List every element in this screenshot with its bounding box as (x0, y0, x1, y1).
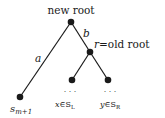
node-x (69, 77, 76, 84)
node-new-root (68, 19, 75, 26)
label-s-m1: sm+1 (10, 103, 32, 116)
node-y (105, 77, 112, 84)
node-old-root (87, 49, 94, 56)
label-new-root: new root (47, 4, 95, 16)
node-s-m1 (17, 94, 24, 101)
label-x: x∈SL (55, 100, 75, 110)
ellipsis-y: · · · (104, 87, 117, 96)
edge-left-child (72, 52, 90, 80)
label-edge-a: a (35, 52, 41, 64)
label-edge-b: b (83, 27, 90, 39)
label-old-root: r=old root (94, 38, 150, 50)
edge-a (20, 22, 71, 97)
label-y: y∈SR (99, 100, 121, 110)
ellipsis-x: · · · (64, 87, 77, 96)
edge-right-child (90, 52, 108, 80)
tree-diagram: new root b a r=old root · · · · · · sm+1… (0, 0, 165, 118)
